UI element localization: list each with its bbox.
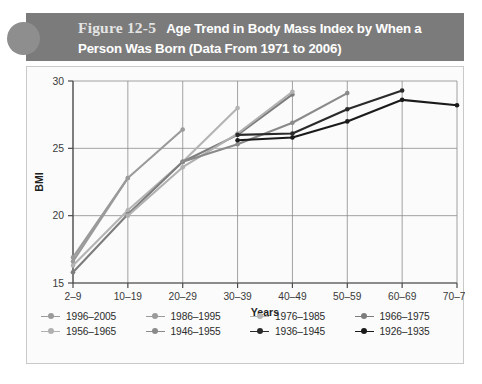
chart-legend: 1996–20051986–19951976–19851966–19751956… xyxy=(37,309,455,339)
svg-text:15: 15 xyxy=(52,278,64,289)
figure-header-text: Figure 12-5Age Trend in Body Mass Index … xyxy=(78,18,456,57)
legend-marker-icon xyxy=(250,312,269,321)
svg-text:30–39: 30–39 xyxy=(223,291,252,302)
svg-text:10–19: 10–19 xyxy=(114,291,143,302)
y-tick-labels: 15202530 xyxy=(52,76,64,289)
svg-text:60–69: 60–69 xyxy=(388,291,417,302)
svg-text:70–79: 70–79 xyxy=(443,291,465,302)
svg-text:2–9: 2–9 xyxy=(65,291,82,302)
grid-lines xyxy=(73,81,457,283)
svg-text:25: 25 xyxy=(52,143,64,154)
legend-item[interactable]: 1936–1945 xyxy=(246,324,351,339)
legend-item[interactable]: 1956–1965 xyxy=(37,324,142,339)
legend-label: 1956–1965 xyxy=(66,326,116,337)
legend-marker-icon xyxy=(41,327,60,336)
svg-text:20: 20 xyxy=(52,210,64,221)
legend-marker-icon xyxy=(355,312,374,321)
legend-item[interactable]: 1926–1935 xyxy=(351,324,456,339)
legend-marker-icon xyxy=(41,312,60,321)
chart-panel: 15202530 2–910–1920–2930–3940–4950–5960–… xyxy=(26,66,464,364)
svg-text:BMI: BMI xyxy=(33,172,45,191)
legend-item[interactable]: 1986–1995 xyxy=(142,309,247,324)
legend-item[interactable]: 1976–1985 xyxy=(246,309,351,324)
data-series xyxy=(71,88,460,274)
header-circle-badge xyxy=(7,22,40,55)
legend-label: 1946–1955 xyxy=(171,326,221,337)
legend-label: 1936–1945 xyxy=(275,326,325,337)
svg-text:50–59: 50–59 xyxy=(333,291,362,302)
axis-lines xyxy=(68,81,457,288)
legend-marker-icon xyxy=(250,327,269,336)
legend-item[interactable]: 1966–1975 xyxy=(351,309,456,324)
legend-label: 1996–2005 xyxy=(66,311,116,322)
figure-number: Figure 12-5 xyxy=(78,19,156,36)
x-tick-labels: 2–910–1920–2930–3940–4950–5960–6970–79 xyxy=(65,291,466,302)
figure-header-bar: Figure 12-5Age Trend in Body Mass Index … xyxy=(26,13,464,61)
legend-label: 1986–1995 xyxy=(171,311,221,322)
svg-text:20–29: 20–29 xyxy=(169,291,198,302)
legend-label: 1966–1975 xyxy=(380,311,430,322)
legend-label: 1926–1935 xyxy=(380,326,430,337)
legend-marker-icon xyxy=(146,327,165,336)
svg-text:40–49: 40–49 xyxy=(278,291,307,302)
legend-item[interactable]: 1946–1955 xyxy=(142,324,247,339)
legend-item[interactable]: 1996–2005 xyxy=(37,309,142,324)
legend-label: 1976–1985 xyxy=(275,311,325,322)
legend-marker-icon xyxy=(355,327,374,336)
svg-text:30: 30 xyxy=(52,76,64,87)
legend-marker-icon xyxy=(146,312,165,321)
